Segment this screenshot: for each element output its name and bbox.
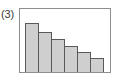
bar-3: 52: [51, 39, 65, 72]
chart-frame: 78 64 52 41 31 22: [19, 8, 111, 73]
bar-2: 64: [38, 32, 52, 72]
bar-4: 41: [64, 46, 78, 72]
figure-number-label: (3): [1, 9, 14, 20]
figure-container: (3) 78 64 52 41 31 22: [0, 0, 117, 80]
bar-5: 31: [77, 52, 91, 72]
bar-6: 22: [90, 58, 104, 72]
bar-chart-plot-area: 78 64 52 41 31 22: [25, 9, 101, 72]
bar-1: 78: [25, 23, 39, 72]
